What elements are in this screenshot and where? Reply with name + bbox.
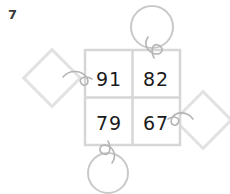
grid-cell-r1c0: 79 <box>96 112 122 134</box>
grid-cell-r0c0: 91 <box>96 68 122 90</box>
number-grid: 91 82 79 67 <box>85 50 180 145</box>
bottom-circle-outline <box>88 153 128 193</box>
right-diamond-shape <box>175 92 230 149</box>
top-circle-shape <box>131 6 173 48</box>
bottom-circle-shape <box>88 153 128 193</box>
left-diamond-shape <box>24 50 81 107</box>
right-diamond-outline <box>175 92 230 149</box>
grid-cell-r0c1: 82 <box>143 68 169 90</box>
left-diamond-outline <box>24 50 81 107</box>
grid-cell-r1c1: 67 <box>143 112 169 134</box>
puzzle-canvas: 7 91 82 79 67 <box>0 0 230 194</box>
top-circle-outline <box>131 6 173 48</box>
puzzle-graphic: 91 82 79 67 <box>0 0 230 194</box>
